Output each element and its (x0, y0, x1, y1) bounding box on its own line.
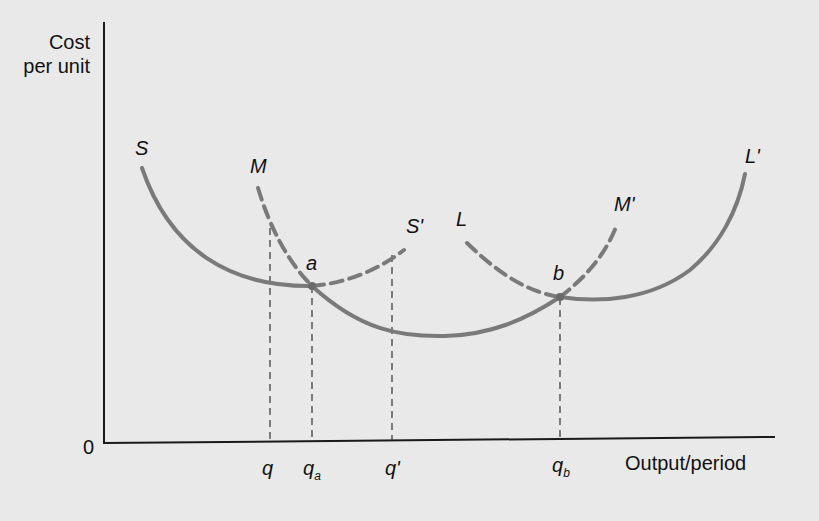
tick-qa-main: q (303, 457, 314, 479)
x-axis-label: Output/period (625, 452, 746, 475)
tick-qb: qb (552, 454, 570, 480)
tick-qb-sub: b (563, 466, 570, 480)
curve-s-dashed (312, 250, 404, 286)
label-s: S (135, 137, 148, 160)
label-l: L (456, 208, 467, 231)
cost-curves-diagram (0, 0, 819, 521)
curve-m-dashed-left (258, 188, 312, 286)
tick-qb-main: q (552, 454, 563, 476)
label-point-b: b (553, 262, 564, 285)
curve-m-solid (312, 286, 560, 336)
tick-qa-sub: a (314, 469, 321, 483)
y-axis-label-line2: per unit (0, 54, 90, 78)
curve-m-dashed-right (560, 227, 616, 297)
label-l-prime: L' (745, 145, 760, 168)
curve-l-solid (560, 174, 745, 300)
label-s-prime: S' (406, 215, 423, 238)
tick-qa: qa (303, 457, 321, 483)
label-m: M (250, 155, 267, 178)
origin-label: 0 (83, 436, 94, 459)
x-axis (103, 437, 775, 443)
curve-s-solid (142, 168, 312, 286)
label-point-a: a (306, 252, 317, 275)
curve-l-dashed (467, 243, 560, 297)
y-axis-label-line1: Cost (0, 30, 90, 54)
label-m-prime: M' (614, 193, 634, 216)
tick-q: q (262, 457, 273, 480)
point-a-marker (308, 282, 316, 290)
y-axis-label: Cost per unit (0, 30, 90, 78)
point-b-marker (556, 293, 564, 301)
tick-q-prime: q' (385, 457, 400, 480)
